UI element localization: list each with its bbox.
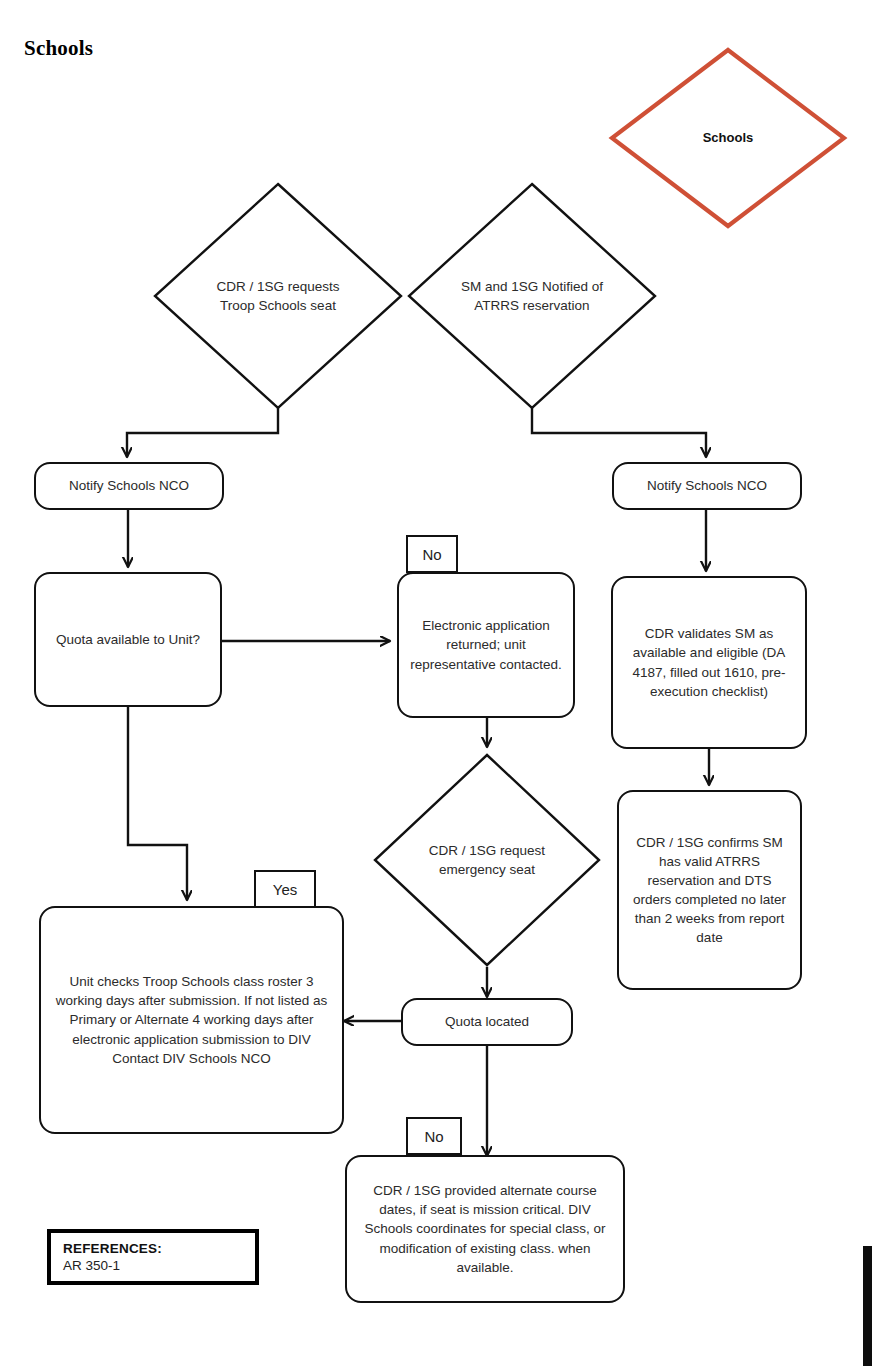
node-notify-schools-nco-left-label: Notify Schools NCO xyxy=(59,472,199,499)
node-notify-schools-nco-right-label: Notify Schools NCO xyxy=(637,472,777,499)
edge-label-no-bottom-text: No xyxy=(424,1128,443,1145)
node-quota-available[interactable]: Quota available to Unit? xyxy=(34,572,222,707)
node-cdr-confirms[interactable]: CDR / 1SG confirms SM has valid ATRRS re… xyxy=(617,790,802,990)
edge-cdr-requests-to-notify-left xyxy=(127,408,278,456)
node-electronic-application[interactable]: Electronic application returned; unit re… xyxy=(397,572,575,718)
node-cdr-validates[interactable]: CDR validates SM as available and eligib… xyxy=(611,576,807,749)
node-sm-notified-label: SM and 1SG Notified of ATRRS reservation xyxy=(451,181,612,411)
legend-diamond-label: Schools xyxy=(651,46,805,230)
node-notify-schools-nco-left[interactable]: Notify Schools NCO xyxy=(34,462,224,510)
node-emergency-seat[interactable]: CDR / 1SG request emergency seat xyxy=(372,752,602,968)
node-cdr-confirms-label: CDR / 1SG confirms SM has valid ATRRS re… xyxy=(619,829,800,952)
edge-label-yes-text: Yes xyxy=(273,881,297,898)
node-cdr-validates-label: CDR validates SM as available and eligib… xyxy=(613,620,805,705)
edge-label-no-top-text: No xyxy=(422,546,441,563)
node-notify-schools-nco-right[interactable]: Notify Schools NCO xyxy=(612,462,802,510)
page-edge-artifact xyxy=(863,1246,872,1366)
node-quota-located-label: Quota located xyxy=(435,1008,539,1035)
node-unit-checks[interactable]: Unit checks Troop Schools class roster 3… xyxy=(39,906,344,1134)
node-unit-checks-label: Unit checks Troop Schools class roster 3… xyxy=(41,968,342,1072)
node-alternate-dates[interactable]: CDR / 1SG provided alternate course date… xyxy=(345,1155,625,1303)
edge-quota-to-unit-checks xyxy=(128,707,187,899)
flowchart-canvas: Schools xyxy=(0,0,872,1366)
node-emergency-seat-label: CDR / 1SG request emergency seat xyxy=(413,752,560,968)
node-electronic-application-label: Electronic application returned; unit re… xyxy=(399,612,573,677)
references-box: REFERENCES: AR 350-1 xyxy=(47,1229,259,1285)
node-quota-located[interactable]: Quota located xyxy=(401,998,573,1046)
edge-sm-notified-to-notify-right xyxy=(532,408,706,456)
node-sm-notified[interactable]: SM and 1SG Notified of ATRRS reservation xyxy=(406,181,658,411)
page-title: Schools xyxy=(24,36,93,61)
node-quota-available-label: Quota available to Unit? xyxy=(46,626,210,653)
edge-label-yes: Yes xyxy=(254,870,316,908)
node-cdr-requests[interactable]: CDR / 1SG requests Troop Schools seat xyxy=(152,181,404,411)
edge-label-no-bottom: No xyxy=(406,1117,462,1155)
node-cdr-requests-label: CDR / 1SG requests Troop Schools seat xyxy=(197,181,358,411)
node-alternate-dates-label: CDR / 1SG provided alternate course date… xyxy=(347,1177,623,1281)
references-heading: REFERENCES: xyxy=(63,1241,243,1256)
edge-label-no-top: No xyxy=(406,535,458,573)
references-body: AR 350-1 xyxy=(63,1258,243,1273)
